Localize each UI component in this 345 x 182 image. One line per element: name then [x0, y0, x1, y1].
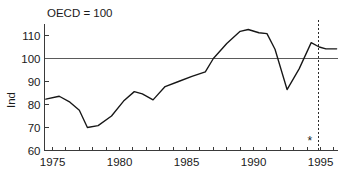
x-tick-label: 1995 [308, 156, 334, 168]
x-axis-tick-labels: 19751980198519901995 [40, 156, 334, 168]
chart-title-group: OECD = 100 [47, 7, 113, 19]
y-tick-label: 100 [21, 53, 40, 65]
y-axis-title-group: Ind [5, 92, 17, 108]
chart-container: OECD = 100 Ind 60708090100110 1975198019… [0, 0, 345, 182]
asterisk-annotation: * [308, 134, 313, 148]
y-axis-tick-labels: 60708090100110 [21, 30, 40, 157]
x-tick-label: 1975 [40, 156, 66, 168]
y-tick-label: 70 [28, 122, 41, 134]
x-axis-tick-marks [53, 147, 334, 151]
y-axis-title: Ind [5, 92, 17, 108]
y-axis-tick-marks [45, 36, 49, 151]
x-tick-label: 1985 [174, 156, 200, 168]
index-series-line [46, 30, 337, 128]
y-tick-label: 60 [28, 145, 41, 157]
x-tick-label: 1980 [107, 156, 133, 168]
y-tick-label: 110 [22, 30, 40, 42]
chart-title: OECD = 100 [47, 7, 113, 19]
x-tick-label: 1990 [241, 156, 267, 168]
y-tick-label: 90 [28, 76, 41, 88]
y-tick-label: 80 [28, 99, 41, 111]
line-chart: OECD = 100 Ind 60708090100110 1975198019… [0, 0, 345, 182]
annotations: * [308, 134, 313, 148]
